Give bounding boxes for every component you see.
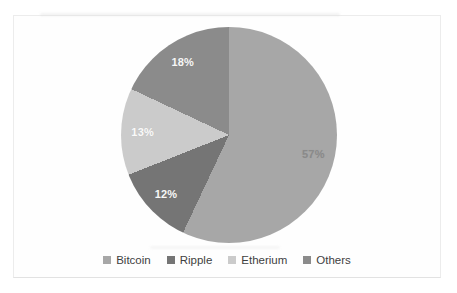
legend-item-etherium: Etherium — [228, 254, 287, 266]
chart-legend: Bitcoin Ripple Etherium Others — [13, 251, 441, 269]
legend-item-ripple: Ripple — [167, 254, 213, 266]
legend-item-label: Bitcoin — [116, 254, 151, 266]
slice-label-etherium: 13% — [131, 126, 154, 138]
legend-item-bitcoin: Bitcoin — [103, 254, 151, 266]
legend-marker-swatch — [228, 256, 236, 264]
legend-item-label: Others — [316, 254, 351, 266]
legend-marker-swatch — [167, 256, 175, 264]
slice-label-bitcoin: 57% — [302, 148, 325, 160]
pie-chart: 57%12%13%18% — [121, 27, 337, 243]
legend-item-others: Others — [303, 254, 351, 266]
legend-item-label: Etherium — [241, 254, 287, 266]
legend-item-label: Ripple — [180, 254, 213, 266]
legend-marker-swatch — [303, 256, 311, 264]
legend-marker-swatch — [103, 256, 111, 264]
slice-label-ripple: 12% — [155, 188, 178, 200]
slice-label-others: 18% — [171, 56, 194, 68]
